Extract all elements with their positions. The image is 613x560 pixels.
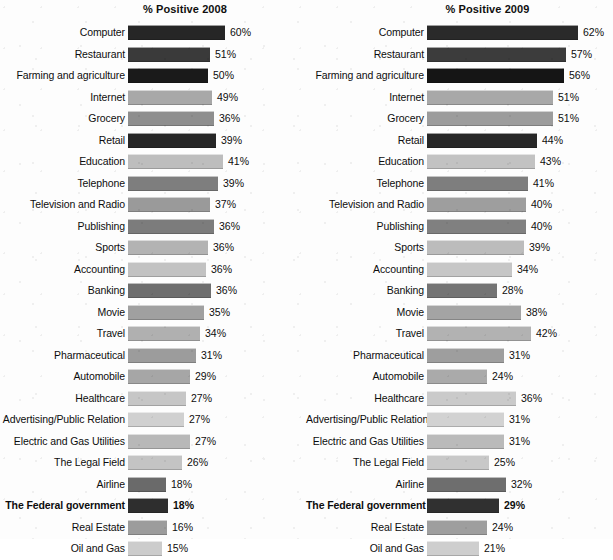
- bar-rows-2008: Computer60%Restaurant51%Farming and agri…: [0, 22, 306, 560]
- bar: [128, 391, 186, 406]
- bar-value-label: 16%: [167, 522, 193, 533]
- bar-track: 40%: [427, 219, 613, 234]
- chart-panel-2009: % Positive 2009 Computer62%Restaurant57%…: [306, 0, 613, 539]
- bar-track: 27%: [128, 434, 306, 449]
- bar-row: Healthcare36%: [306, 388, 613, 410]
- bar-category-label: Advertising/Public Relation: [0, 414, 128, 425]
- bar-row: Retail39%: [0, 130, 306, 152]
- bar-category-label: Healthcare: [0, 393, 128, 404]
- bar-value-label: 40%: [526, 221, 552, 232]
- bar-value-label: 60%: [225, 27, 251, 38]
- bar-value-label: 36%: [214, 113, 240, 124]
- bar-category-label: Restaurant: [0, 49, 128, 60]
- bar: [128, 305, 204, 320]
- bar-row: Advertising/Public Relation27%: [0, 409, 306, 431]
- bar: [128, 111, 214, 126]
- bar-track: 38%: [427, 305, 613, 320]
- bar-row: The Legal Field25%: [306, 452, 613, 474]
- bar-value-label: 31%: [504, 350, 530, 361]
- bar-track: 56%: [427, 68, 613, 83]
- bar-track: 62%: [427, 25, 613, 40]
- bar-value-label: 35%: [204, 307, 230, 318]
- bar-row: Publishing40%: [306, 216, 613, 238]
- bar-category-label: Education: [306, 156, 427, 167]
- bar: [128, 412, 184, 427]
- bar: [427, 520, 487, 535]
- bar-value-label: 49%: [212, 92, 238, 103]
- bar-value-label: 44%: [537, 135, 563, 146]
- bar-row: Oil and Gas21%: [306, 538, 613, 560]
- bar-value-label: 29%: [499, 500, 525, 511]
- bar-track: 21%: [427, 541, 613, 556]
- bar: [427, 133, 537, 148]
- bar-value-label: 31%: [196, 350, 222, 361]
- bar-track: 31%: [427, 412, 613, 427]
- bar-track: 39%: [427, 240, 613, 255]
- bar-category-label: Airline: [306, 479, 427, 490]
- bar-track: 36%: [128, 111, 306, 126]
- bar-category-label: Advertising/Public Relation: [306, 414, 427, 425]
- bar-category-label: Farming and agriculture: [306, 70, 427, 81]
- bar-category-label: Telephone: [306, 178, 427, 189]
- bar: [427, 455, 489, 470]
- bar: [427, 176, 528, 191]
- bar-value-label: 50%: [208, 70, 234, 81]
- bar-row: Publishing36%: [0, 216, 306, 238]
- bar: [427, 498, 499, 513]
- bar-row: Electric and Gas Utilities27%: [0, 431, 306, 453]
- bar-track: 31%: [427, 348, 613, 363]
- chart-title-2008: % Positive 2008: [0, 3, 306, 15]
- bar: [128, 283, 211, 298]
- bar-row: Travel34%: [0, 323, 306, 345]
- bar: [427, 305, 521, 320]
- bar-value-label: 34%: [200, 328, 226, 339]
- bar-value-label: 36%: [516, 393, 542, 404]
- bar-category-label: Retail: [306, 135, 427, 146]
- bar-category-label: The Legal Field: [306, 457, 427, 468]
- bar-track: 57%: [427, 47, 613, 62]
- bar-row: Sports36%: [0, 237, 306, 259]
- bar-row: The Legal Field26%: [0, 452, 306, 474]
- bar-category-label: Sports: [0, 242, 128, 253]
- bar-track: 37%: [128, 197, 306, 212]
- bar-category-label: The Legal Field: [0, 457, 128, 468]
- bar: [128, 434, 190, 449]
- bar-track: 36%: [427, 391, 613, 406]
- bar-track: 50%: [128, 68, 306, 83]
- bar-value-label: 24%: [487, 371, 513, 382]
- bar-row: Real Estate16%: [0, 517, 306, 539]
- bar: [427, 240, 524, 255]
- bar-category-label: Automobile: [0, 371, 128, 382]
- chart-panel-2008: % Positive 2008 Computer60%Restaurant51%…: [0, 0, 306, 539]
- bar: [128, 348, 196, 363]
- bar-value-label: 15%: [162, 543, 188, 554]
- bar-track: 28%: [427, 283, 613, 298]
- bar-track: 51%: [128, 47, 306, 62]
- bar-category-label: Internet: [306, 92, 427, 103]
- bar-category-label: Real Estate: [306, 522, 427, 533]
- bar: [427, 154, 535, 169]
- bar-value-label: 21%: [479, 543, 505, 554]
- bar-category-label: Oil and Gas: [0, 543, 128, 554]
- bar-row: Internet51%: [306, 87, 613, 109]
- bar-value-label: 36%: [214, 221, 240, 232]
- bar-value-label: 42%: [531, 328, 557, 339]
- bar-row: Banking28%: [306, 280, 613, 302]
- bar-track: 26%: [128, 455, 306, 470]
- bar: [128, 240, 208, 255]
- bar-value-label: 62%: [578, 27, 604, 38]
- bar-category-label: Television and Radio: [0, 199, 128, 210]
- bar-track: 31%: [427, 434, 613, 449]
- bar: [128, 90, 212, 105]
- bar: [427, 90, 553, 105]
- bar-value-label: 36%: [206, 264, 232, 275]
- bar-row: Education43%: [306, 151, 613, 173]
- bar-track: 41%: [427, 176, 613, 191]
- bar-category-label: Computer: [0, 27, 128, 38]
- bar-value-label: 18%: [168, 500, 194, 511]
- bar-row: Airline18%: [0, 474, 306, 496]
- bar-value-label: 56%: [564, 70, 590, 81]
- bar-row: Automobile24%: [306, 366, 613, 388]
- bar-category-label: Accounting: [306, 264, 427, 275]
- bar-track: 34%: [128, 326, 306, 341]
